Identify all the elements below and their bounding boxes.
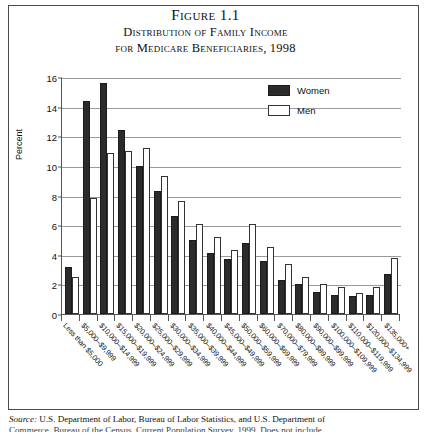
bar-men [267,247,274,314]
legend-item-men: Men [268,105,388,116]
y-tick-label: 2 [52,280,57,291]
bar-women [295,284,302,314]
bar-men [231,250,238,314]
bar-men [161,176,168,314]
y-tick-label: 6 [52,221,57,232]
bar-men [338,287,345,314]
bar-women [349,296,356,314]
y-tick-label: 4 [52,250,57,261]
bar-women [118,130,125,314]
bar-group [134,77,152,314]
bar-group [152,77,170,314]
legend: Women Men [268,85,388,125]
bar-group [169,77,187,314]
bar-women [331,295,338,314]
y-tick-label: 8 [52,191,57,202]
legend-swatch-men-icon [268,105,290,116]
bar-men [373,287,380,314]
bar-men [214,237,221,314]
legend-label-men: Men [297,105,315,116]
bar-women [313,292,320,314]
bar-men [320,284,327,314]
bar-women [278,280,285,314]
x-axis-labels: Less than $5,000$5,000–$9,999$10,000–$14… [61,321,400,401]
bar-group [81,77,99,314]
bar-women [100,83,107,314]
bar-men [356,293,363,314]
bar-men [285,264,292,314]
chart: Percent 0246810121416 Less than $5,000$5… [0,0,411,405]
bar-group [98,77,116,314]
figure-page: Figure 1.1 Distribution of Family Income… [0,0,427,435]
y-tick-label: 16 [46,73,57,84]
bar-men [107,153,114,314]
y-tick-label: 14 [46,102,57,113]
bar-women [171,216,178,314]
bar-women [366,295,373,314]
bar-women [83,101,90,314]
bar-group [205,77,223,314]
bar-men [125,151,132,314]
y-axis-title: Percent [14,129,24,160]
bar-men [143,148,150,314]
y-tick-label: 12 [46,132,57,143]
bar-men [72,277,79,314]
bar-women [242,243,249,314]
bar-men [249,224,256,314]
bar-women [154,191,161,314]
source-line2: Commerce, Bureau of the Census, Current … [9,425,421,432]
bar-men [196,224,203,314]
bar-women [384,274,391,314]
bar-men [90,198,97,314]
bar-women [207,253,214,314]
y-tick-label: 0 [52,310,57,321]
bar-men [178,201,185,314]
bar-group [223,77,241,314]
bar-group [116,77,134,314]
bar-women [224,259,231,314]
bar-men [302,277,309,314]
bar-group [240,77,258,314]
legend-swatch-women-icon [268,85,290,96]
source-note: Source: U.S. Department of Labor, Bureau… [9,414,421,432]
legend-item-women: Women [268,85,388,96]
bar-group [63,77,81,314]
bar-women [189,240,196,314]
source-label: Source: [9,414,37,424]
bar-women [65,267,72,314]
bar-women [260,261,267,314]
source-line1: U.S. Department of Labor, Bureau of Labo… [39,414,325,424]
bar-women [136,166,143,314]
bar-group [187,77,205,314]
legend-label-women: Women [297,85,330,96]
bar-men [391,258,398,314]
y-tick-label: 10 [46,161,57,172]
